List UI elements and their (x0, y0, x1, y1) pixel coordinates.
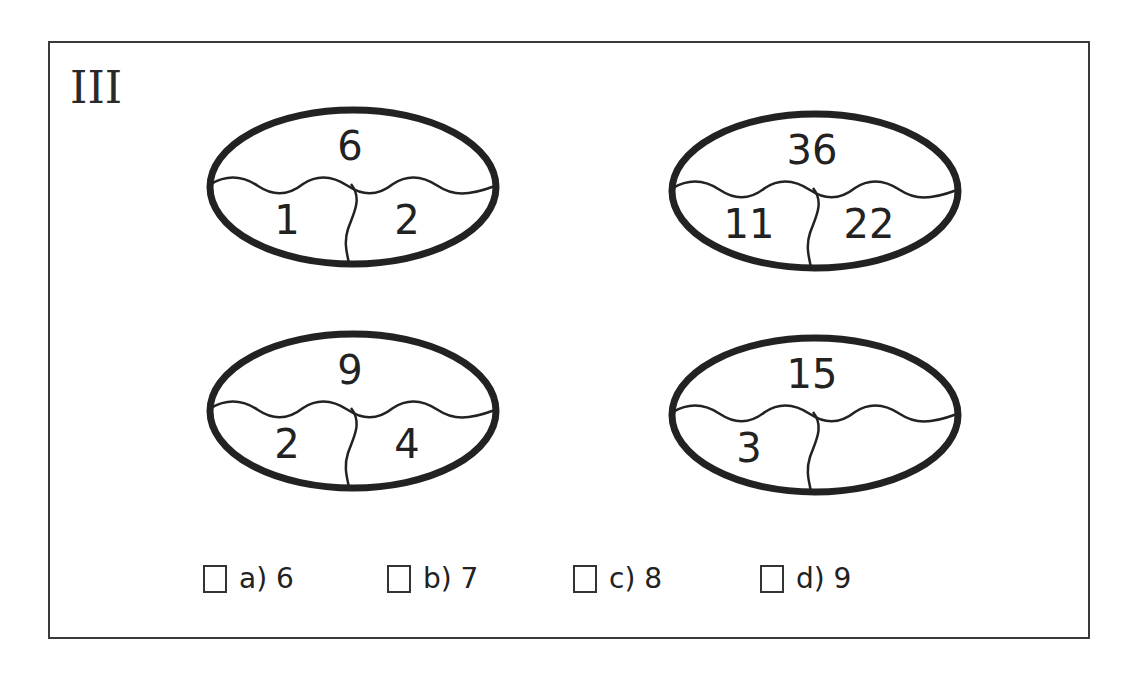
option-d[interactable]: d) 9 (760, 562, 851, 595)
oval-top-number: 36 (787, 130, 838, 170)
option-label: b) 7 (423, 562, 478, 595)
oval-right-number: 22 (844, 204, 895, 244)
puzzle-label: III (70, 66, 122, 110)
oval-left-number: 3 (736, 428, 761, 468)
oval-right-number: 2 (394, 200, 419, 240)
oval-left-number: 1 (274, 200, 299, 240)
checkbox-icon[interactable] (573, 565, 597, 593)
oval-4: 15 3 (665, 332, 965, 497)
option-label: a) 6 (239, 562, 294, 595)
oval-right-number: 4 (394, 424, 419, 464)
oval-2: 36 11 22 (665, 108, 965, 273)
oval-1: 6 1 2 (203, 104, 503, 269)
oval-left-number: 2 (274, 424, 299, 464)
option-b[interactable]: b) 7 (387, 562, 478, 595)
answer-options: a) 6 b) 7 c) 8 d) 9 (0, 562, 1139, 602)
option-label: d) 9 (796, 562, 851, 595)
oval-top-number: 9 (337, 350, 362, 390)
checkbox-icon[interactable] (387, 565, 411, 593)
checkbox-icon[interactable] (760, 565, 784, 593)
option-c[interactable]: c) 8 (573, 562, 662, 595)
oval-top-number: 6 (337, 126, 362, 166)
oval-left-number: 11 (724, 204, 775, 244)
option-a[interactable]: a) 6 (203, 562, 294, 595)
oval-top-number: 15 (787, 354, 838, 394)
option-label: c) 8 (609, 562, 662, 595)
oval-3: 9 2 4 (203, 328, 503, 493)
checkbox-icon[interactable] (203, 565, 227, 593)
